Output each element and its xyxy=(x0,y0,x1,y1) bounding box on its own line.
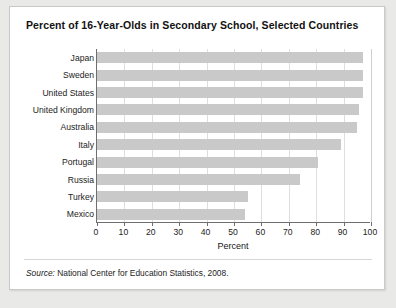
bar-russia xyxy=(97,174,300,185)
y-label-australia: Australia xyxy=(16,122,94,132)
x-tick-80 xyxy=(316,222,317,226)
bar-italy xyxy=(97,139,341,150)
x-tick-label-0: 0 xyxy=(94,227,99,237)
bar-united-kingdom xyxy=(97,104,359,115)
x-tick-label-30: 30 xyxy=(173,227,183,237)
x-tick-10 xyxy=(124,222,125,226)
y-label-italy: Italy xyxy=(16,140,94,150)
x-tick-label-70: 70 xyxy=(283,227,293,237)
bar-australia xyxy=(97,122,357,133)
x-tick-60 xyxy=(261,222,262,226)
x-tick-50 xyxy=(234,222,235,226)
y-label-sweden: Sweden xyxy=(16,70,94,80)
x-tick-label-50: 50 xyxy=(228,227,238,237)
x-tick-label-80: 80 xyxy=(310,227,320,237)
x-axis-title: Percent xyxy=(96,241,370,251)
x-tick-100 xyxy=(371,222,372,226)
source-text: National Center for Education Statistics… xyxy=(55,268,229,278)
bar-portugal xyxy=(97,157,318,168)
y-label-united-kingdom: United Kingdom xyxy=(16,105,94,115)
bar-sweden xyxy=(97,70,363,81)
source-label: Source: xyxy=(26,268,55,278)
x-tick-70 xyxy=(289,222,290,226)
chart-plot-wrapper: JapanSwedenUnited StatesUnited KingdomAu… xyxy=(10,7,386,291)
chart-card: Percent of 16-Year-Olds in Secondary Sch… xyxy=(9,6,385,290)
bar-turkey xyxy=(97,191,248,202)
x-tick-90 xyxy=(344,222,345,226)
page-root: Percent of 16-Year-Olds in Secondary Sch… xyxy=(0,0,396,308)
x-axis-tick-labels: 0102030405060708090100 xyxy=(96,227,386,241)
bar-japan xyxy=(97,52,363,63)
x-tick-label-60: 60 xyxy=(256,227,266,237)
source-note: Source: National Center for Education St… xyxy=(26,268,229,278)
x-tick-30 xyxy=(179,222,180,226)
y-label-turkey: Turkey xyxy=(16,192,94,202)
x-tick-label-10: 10 xyxy=(119,227,129,237)
x-tick-40 xyxy=(207,222,208,226)
gridline-100 xyxy=(371,49,372,222)
x-tick-20 xyxy=(152,222,153,226)
x-tick-label-40: 40 xyxy=(201,227,211,237)
y-axis-category-labels: JapanSwedenUnited StatesUnited KingdomAu… xyxy=(16,49,94,223)
x-tick-label-100: 100 xyxy=(363,227,377,237)
x-tick-label-20: 20 xyxy=(146,227,156,237)
bar-united-states xyxy=(97,87,363,98)
bar-mexico xyxy=(97,209,245,220)
y-label-united-states: United States xyxy=(16,88,94,98)
y-label-mexico: Mexico xyxy=(16,209,94,219)
plot-frame xyxy=(96,49,370,223)
y-label-russia: Russia xyxy=(16,175,94,185)
x-tick-0 xyxy=(97,222,98,226)
x-tick-label-90: 90 xyxy=(338,227,348,237)
footer-divider xyxy=(24,259,372,260)
y-label-portugal: Portugal xyxy=(16,157,94,167)
y-label-japan: Japan xyxy=(16,53,94,63)
